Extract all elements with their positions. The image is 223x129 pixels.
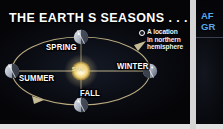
season-label-winter: WINTER [117,61,148,71]
season-label-fall: FALL [80,88,100,98]
season-label-spring: SPRING [46,42,77,52]
legend-text: A location in northern hemisphere [147,28,183,51]
legend-line-1: A location [147,28,178,35]
adjacent-panel-heading-line1: AF [201,10,214,21]
sun-label: SUN [72,66,84,72]
adjacent-panel-divider [196,37,223,38]
location-marker-fall [77,101,79,103]
season-label-summer: SUMMER [19,73,54,83]
adjacent-panel-heading-line2: GR [201,21,215,32]
location-marker-summer [9,65,11,67]
earth-fall [74,98,88,112]
screenshot-stage: THE EARTH S SEASONS . . . A location in … [0,0,223,129]
open-circle-marker-icon [139,30,145,36]
adjacent-panel: AF GR [196,0,223,129]
adjacent-panel-bottom-strip [196,124,223,129]
location-marker-winter [151,67,153,69]
legend-line-3: hemisphere [147,43,183,50]
panel-bottom-strip [0,124,190,129]
legend: A location in northern hemisphere [139,28,190,51]
page-title: THE EARTH S SEASONS . . . [9,11,188,25]
location-marker-spring [78,33,80,35]
legend-line-2: in northern [147,36,181,43]
earth-summer [5,64,19,78]
seasons-diagram-panel: THE EARTH S SEASONS . . . A location in … [0,0,190,129]
